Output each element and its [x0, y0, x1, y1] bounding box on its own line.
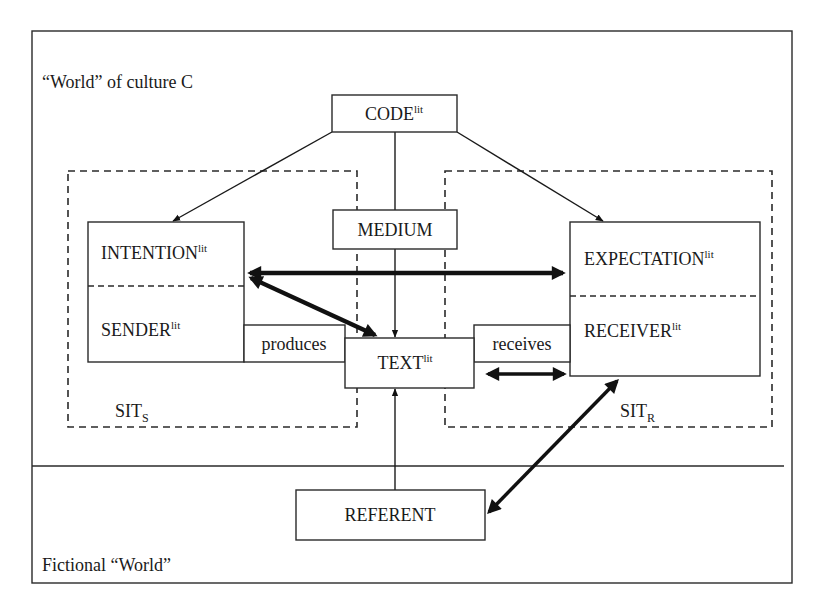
svg-text:EXPECTATIONlit: EXPECTATIONlit — [584, 248, 714, 269]
sit-receiver-label: SITR — [620, 401, 655, 425]
medium-label: MEDIUM — [358, 220, 433, 240]
receives-label: receives — [493, 334, 552, 354]
svg-text:SENDERlit: SENDERlit — [101, 319, 180, 340]
culture-world-label: “World” of culture C — [42, 72, 193, 92]
produces-label: produces — [262, 334, 327, 354]
produces-relation: produces — [244, 325, 345, 362]
sender-label: SENDER — [101, 320, 171, 340]
svg-text:INTENTIONlit: INTENTIONlit — [101, 242, 207, 263]
referent-node: REFERENT — [296, 490, 485, 540]
receives-relation: receives — [474, 325, 570, 362]
text-label: TEXT — [377, 353, 423, 373]
literary-communication-diagram: “World” of culture C Fictional “World” C… — [0, 0, 820, 613]
expectation-receiver-node: EXPECTATIONlit RECEIVERlit — [570, 222, 760, 376]
svg-text:RECEIVERlit: RECEIVERlit — [584, 320, 681, 341]
code-to-intention-arrow — [173, 132, 332, 221]
medium-node: MEDIUM — [333, 210, 457, 249]
fictional-world-label: Fictional “World” — [42, 555, 171, 575]
receiver-referent-double-arrow — [489, 381, 617, 512]
referent-label: REFERENT — [344, 505, 435, 525]
code-node: CODElit — [332, 95, 457, 132]
text-node: TEXTlit — [345, 338, 474, 388]
code-to-expectation-arrow — [457, 132, 603, 221]
sit-sender-label: SITS — [115, 401, 149, 425]
receiver-label: RECEIVER — [584, 321, 672, 341]
code-label: CODE — [365, 104, 414, 124]
intention-sender-node: INTENTIONlit SENDERlit — [88, 222, 244, 362]
intention-label: INTENTION — [101, 243, 198, 263]
expectation-label: EXPECTATION — [584, 249, 705, 269]
